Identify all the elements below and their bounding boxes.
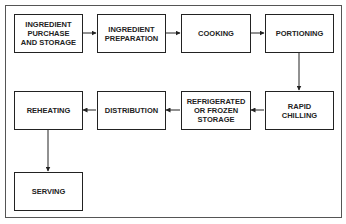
node-rapid-chilling: RAPID CHILLING — [265, 91, 334, 130]
node-reheating: REHEATING — [14, 91, 83, 130]
node-refrigerated-storage: REFRIGERATED OR FROZEN STORAGE — [181, 91, 251, 130]
node-cooking: COOKING — [181, 14, 251, 53]
node-ingredient-purchase: INGREDIENT PURCHASE AND STORAGE — [14, 14, 83, 53]
node-portioning: PORTIONING — [265, 14, 334, 53]
node-distribution: DISTRIBUTION — [97, 91, 166, 130]
node-serving: SERVING — [14, 172, 83, 211]
node-ingredient-preparation: INGREDIENT PREPARATION — [97, 14, 166, 53]
